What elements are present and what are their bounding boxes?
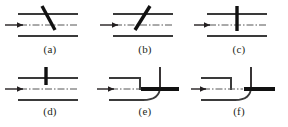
panel-b: (b): [97, 0, 193, 63]
panel-a: (a): [2, 0, 98, 63]
obstacle-plate: [42, 6, 55, 30]
flow-arrow-icon: [100, 22, 118, 27]
panel-a-caption: (a): [2, 43, 98, 56]
flow-arrow-icon: [5, 86, 23, 91]
top-wall-with-bend: [201, 78, 231, 90]
panel-d-caption: (d): [2, 105, 98, 118]
panel-f-caption: (f): [191, 105, 287, 118]
panel-e: (e): [97, 62, 193, 125]
panel-d: (d): [2, 62, 98, 125]
panel-c: (c): [191, 0, 287, 63]
flow-arrow-icon: [97, 86, 114, 91]
top-wall-with-bend: [109, 78, 140, 90]
panel-c-caption: (c): [191, 43, 287, 56]
panel-e-caption: (e): [97, 105, 193, 118]
flow-arrow-icon: [194, 22, 210, 27]
panel-b-caption: (b): [97, 43, 193, 56]
flow-arrow-icon: [191, 86, 206, 91]
panel-f: (f): [191, 62, 287, 125]
obstacle-plate: [135, 6, 150, 30]
figure-container: (a) (b) (c): [0, 0, 288, 127]
flow-arrow-icon: [5, 22, 23, 27]
